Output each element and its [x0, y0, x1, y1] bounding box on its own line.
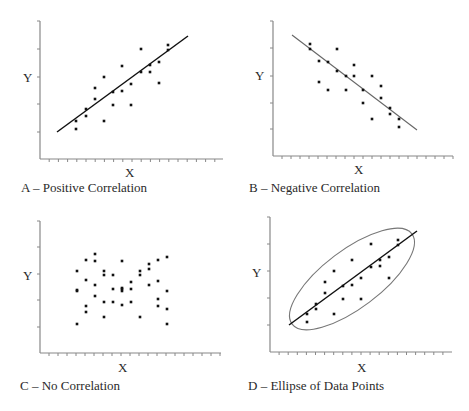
data-point [327, 61, 330, 64]
data-point [389, 107, 392, 110]
data-point [112, 288, 115, 291]
data-point [149, 71, 152, 74]
data-point [336, 70, 339, 73]
data-point [148, 268, 151, 271]
data-point [112, 301, 115, 304]
data-point [342, 285, 345, 288]
data-point [398, 118, 401, 121]
data-point [324, 281, 327, 284]
data-point [370, 266, 373, 269]
data-point [148, 263, 151, 266]
data-point [371, 118, 374, 121]
data-point [333, 270, 336, 273]
panel-c-no-correlation [37, 221, 221, 356]
scatter-figure [0, 0, 469, 411]
data-point [103, 76, 106, 79]
panel-d-ellipse-of-data-points [267, 211, 452, 355]
data-point [360, 277, 363, 280]
data-point [306, 321, 309, 324]
data-point [362, 102, 365, 105]
data-point [139, 270, 142, 273]
data-point [140, 48, 143, 51]
data-point [121, 290, 124, 293]
data-point [85, 305, 88, 308]
data-point [121, 260, 124, 263]
data-point [380, 85, 383, 88]
data-point [306, 313, 309, 316]
panel-a-y-label: Y [23, 70, 32, 86]
panel-a-x-label: X [125, 165, 134, 181]
data-point [157, 305, 160, 308]
data-point [121, 304, 124, 307]
data-point [85, 311, 88, 314]
panel-b-title: B – Negative Correlation [249, 180, 380, 196]
data-point [139, 274, 142, 277]
data-point [397, 239, 400, 242]
data-point [130, 281, 133, 284]
data-point [318, 60, 321, 63]
data-point [157, 280, 160, 283]
data-point [130, 83, 133, 86]
data-point [315, 308, 318, 311]
data-point [388, 256, 391, 259]
data-point [324, 292, 327, 295]
data-point [112, 91, 115, 94]
data-point [353, 64, 356, 67]
data-point [371, 75, 374, 78]
data-point [148, 284, 151, 287]
data-point [94, 260, 97, 263]
data-point [85, 259, 88, 262]
data-point [345, 75, 348, 78]
data-point [121, 90, 124, 93]
data-point [76, 270, 79, 273]
data-point [130, 104, 133, 107]
data-point [397, 244, 400, 247]
data-point [351, 284, 354, 287]
data-point [75, 128, 78, 131]
data-point [398, 126, 401, 129]
panel-d-y-label: Y [252, 265, 261, 281]
data-point [94, 253, 97, 256]
data-point [75, 120, 78, 123]
data-point [360, 298, 363, 301]
data-point [158, 61, 161, 64]
data-point [315, 303, 318, 306]
data-point [157, 298, 160, 301]
data-point [103, 274, 106, 277]
data-point [130, 288, 133, 291]
panel-b-y-label: Y [255, 68, 264, 84]
data-point [149, 64, 152, 67]
panel-a-positive-correlation [37, 21, 223, 162]
data-point [103, 316, 106, 319]
data-point [309, 48, 312, 51]
data-point [103, 270, 106, 273]
data-point [121, 65, 124, 68]
data-point [380, 97, 383, 100]
panel-a-title: A – Positive Correlation [21, 180, 147, 196]
data-point [370, 243, 373, 246]
data-point [103, 120, 106, 123]
data-point [94, 87, 97, 90]
data-point [94, 295, 97, 298]
panel-c-title: C – No Correlation [20, 378, 120, 394]
data-point [166, 308, 169, 311]
data-point [112, 104, 115, 107]
data-point [94, 284, 97, 287]
data-point [167, 44, 170, 47]
data-point [345, 89, 348, 92]
data-point [158, 82, 161, 85]
data-point [157, 259, 160, 262]
data-point [327, 89, 330, 92]
panel-d-title: D – Ellipse of Data Points [248, 378, 384, 394]
data-point [309, 43, 312, 46]
data-point [379, 265, 382, 268]
data-point [76, 323, 79, 326]
data-point [389, 113, 392, 116]
data-point [85, 108, 88, 111]
panel-c-y-label: Y [23, 268, 32, 284]
data-point [112, 274, 115, 277]
data-point [166, 323, 169, 326]
data-point [388, 277, 391, 280]
panel-b-x-label: X [354, 162, 363, 178]
data-point [166, 256, 169, 259]
